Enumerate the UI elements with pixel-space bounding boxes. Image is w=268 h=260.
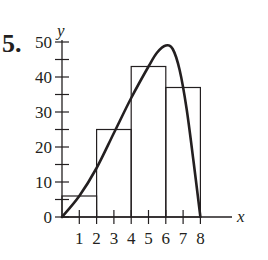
x-tick-label: 7 <box>179 229 188 248</box>
x-axis-ticks: 12345678 <box>75 210 205 248</box>
x-tick-label: 4 <box>127 229 136 248</box>
x-tick-label: 3 <box>110 229 119 248</box>
riemann-rectangles <box>62 67 200 218</box>
rectangle-2 <box>97 130 132 218</box>
x-tick-label: 5 <box>144 229 153 248</box>
x-tick-label: 1 <box>75 229 84 248</box>
x-axis-label: x <box>236 207 245 226</box>
x-tick-label: 8 <box>196 229 205 248</box>
y-tick-label: 10 <box>35 173 52 192</box>
y-tick-label: 40 <box>35 68 52 87</box>
x-tick-label: 6 <box>162 229 171 248</box>
y-axis-ticks: 01020304050 <box>35 33 69 227</box>
y-axis-label: y <box>55 21 65 40</box>
y-tick-label: 20 <box>35 138 52 157</box>
x-tick-label: 2 <box>92 229 101 248</box>
rectangle-4 <box>166 88 201 218</box>
problem-number: 5. <box>2 29 22 58</box>
chart: 5. 01020304050 12345678 y x <box>0 0 268 260</box>
y-tick-label: 0 <box>44 208 53 227</box>
y-tick-label: 30 <box>35 103 52 122</box>
y-tick-label: 50 <box>35 33 52 52</box>
